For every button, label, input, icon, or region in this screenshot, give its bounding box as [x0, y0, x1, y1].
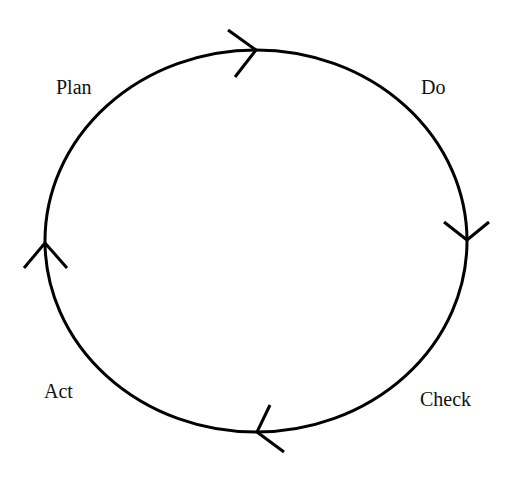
- stage-label-do: Do: [421, 77, 445, 97]
- arrow-right-icon: [228, 30, 256, 77]
- stage-label-act: Act: [44, 381, 73, 401]
- stage-label-check: Check: [420, 389, 471, 409]
- arrow-left-icon: [257, 405, 284, 452]
- cycle-ellipse: [45, 50, 467, 432]
- stage-label-plan: Plan: [56, 77, 92, 97]
